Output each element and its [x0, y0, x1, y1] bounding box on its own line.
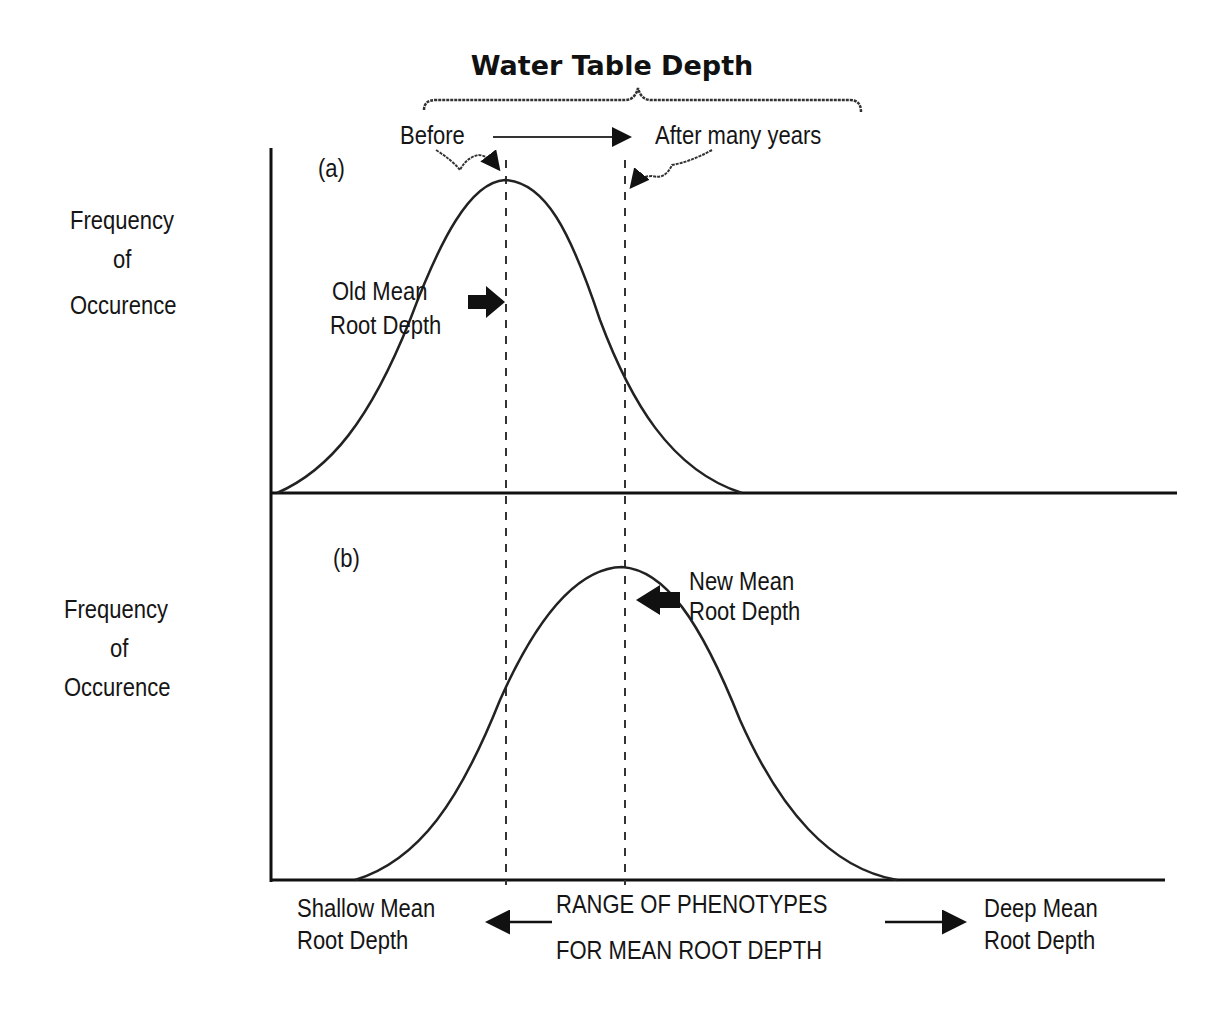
before-pointer-arrow [436, 150, 498, 170]
y-label-line: Occurence [70, 289, 176, 321]
annotation-line: Old Mean [332, 275, 427, 307]
after-pointer-arrow [632, 150, 712, 186]
x-label-line: RANGE OF PHENOTYPES [556, 888, 827, 920]
x-label-line: Root Depth [297, 924, 408, 956]
annotation-line: Root Depth [330, 309, 441, 341]
panel-b-label: (b) [333, 542, 360, 574]
y-label-line: Occurence [64, 671, 170, 703]
y-label-line: Frequency [64, 593, 168, 625]
old-mean-arrow-icon [468, 286, 505, 318]
x-label-line: Root Depth [984, 924, 1095, 956]
annotation-line: Root Depth [689, 595, 800, 627]
x-label-line: FOR MEAN ROOT DEPTH [556, 934, 822, 966]
new-mean-arrow-icon [636, 585, 680, 615]
annotation-line: New Mean [689, 565, 794, 597]
after-label: After many years [655, 119, 821, 151]
diagram-canvas [0, 0, 1224, 1012]
before-label: Before [400, 119, 465, 151]
x-label-line: Deep Mean [984, 892, 1098, 924]
water-table-brace [424, 88, 861, 112]
y-label-line: Frequency [70, 204, 174, 236]
y-label-line: of [113, 243, 131, 275]
panel-a-label: (a) [318, 152, 345, 184]
x-label-line: Shallow Mean [297, 892, 435, 924]
y-label-line: of [110, 632, 128, 664]
